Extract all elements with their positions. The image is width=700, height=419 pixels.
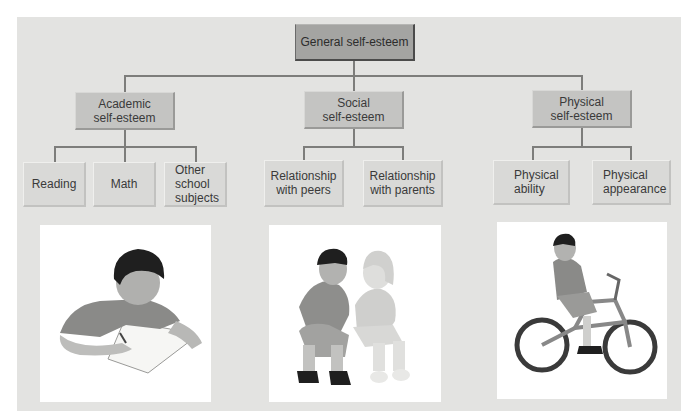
illustration-boy-on-bicycle	[497, 222, 667, 399]
node-math: Math	[93, 162, 156, 207]
node-general-self-esteem: General self-esteem	[295, 24, 415, 61]
connector-reading	[54, 146, 56, 162]
node-physical-ability: Physical ability	[493, 160, 570, 205]
connector-academic-down	[124, 128, 126, 146]
illustration-children-sitting	[269, 225, 441, 402]
illustration-boy-writing	[40, 225, 211, 402]
node-physical-self-esteem: Physical self-esteem	[532, 90, 632, 128]
node-academic-self-esteem: Academic self-esteem	[75, 92, 175, 130]
connector-academic-up	[124, 75, 126, 92]
node-reading: Reading	[23, 162, 86, 207]
connector-physical-horizontal	[532, 146, 632, 148]
node-other-school-subjects: Other school subjects	[164, 162, 227, 207]
connector-math	[124, 146, 126, 162]
connector-social-down	[353, 128, 355, 146]
connector-social-up	[353, 75, 355, 92]
connector-other-subjects	[195, 146, 197, 162]
node-relationship-with-peers: Relationship with peers	[264, 160, 344, 207]
connector-social-horizontal	[303, 146, 404, 148]
connector-physical-down	[581, 128, 583, 146]
node-social-self-esteem: Social self-esteem	[304, 91, 404, 129]
node-physical-appearance: Physical appearance	[592, 160, 671, 205]
node-relationship-with-parents: Relationship with parents	[363, 160, 443, 207]
